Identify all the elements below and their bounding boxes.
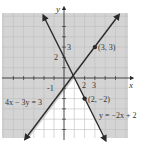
y-axis-label: y (55, 4, 60, 14)
point-label-2-neg2: (2, −2) (88, 95, 110, 104)
y-tick-label-neg1: -1 (47, 84, 54, 93)
x-tick-label-3: 3 (92, 81, 96, 90)
equation-label-y-neg2x: y = −2x + 2 (99, 111, 137, 120)
y-tick-label-3: 3 (67, 43, 71, 52)
x-axis-label: x (128, 80, 133, 90)
equation-label-4x-3y: 4x − 3y = 3 (5, 98, 42, 107)
x-tick-label-2: 2 (82, 81, 86, 90)
y-tick-label-2: 2 (54, 53, 58, 62)
point-3-3 (93, 45, 97, 49)
point-label-3-3: (3, 3) (98, 43, 116, 52)
inequality-graph: y x 3 2 -1 2 3 (3, 3) (2, −2) 4x − 3y = … (0, 0, 143, 147)
point-2-neg2 (82, 96, 86, 100)
